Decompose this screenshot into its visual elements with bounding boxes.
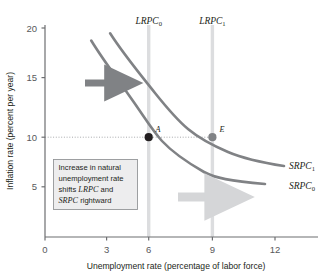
explanation-line-3-pre: shifts bbox=[59, 185, 79, 194]
explanation-line-3-em: LRPC bbox=[77, 185, 99, 194]
x-axis-title: Unemployment rate (percentage of labor f… bbox=[87, 261, 266, 271]
explanation-line-2: unemployment rate bbox=[59, 174, 124, 183]
point-e-label: E bbox=[219, 125, 225, 134]
x-tick-label-6: 6 bbox=[146, 244, 151, 255]
srpc0-label: SRPC0 bbox=[289, 181, 316, 192]
y-axis-title: Inflation rate (percent per year) bbox=[5, 72, 15, 190]
lrpc0-label-text: LRPC bbox=[134, 16, 159, 26]
explanation-line-1: Increase in natural bbox=[59, 163, 122, 172]
x-tick-label-9: 9 bbox=[210, 244, 215, 255]
x-tick-label-12: 12 bbox=[270, 244, 281, 255]
srpc1-label: SRPC1 bbox=[289, 161, 315, 172]
x-tick-label-0: 0 bbox=[42, 244, 47, 255]
lrpc1-label-text: LRPC bbox=[198, 16, 223, 26]
lrpc1-label-sub: 1 bbox=[222, 20, 225, 27]
y-tick-label-15: 15 bbox=[26, 72, 37, 83]
lrpc1-label: LRPC1 bbox=[198, 16, 226, 27]
point-a-label: A bbox=[155, 125, 162, 134]
lrpc0-label: LRPC0 bbox=[134, 16, 162, 27]
y-tick-label-5: 5 bbox=[32, 181, 37, 192]
explanation-line-4-post: rightward bbox=[78, 196, 111, 205]
explanation-line-3: shifts LRPC and bbox=[59, 185, 114, 194]
srpc0-label-text: SRPC bbox=[289, 181, 312, 191]
phillips-curve-figure: 20 15 10 5 0 3 6 9 12 Unemployment rate … bbox=[0, 0, 320, 279]
explanation-line-4-em: SRPC bbox=[59, 196, 79, 205]
explanation-line-4: SRPC rightward bbox=[59, 196, 112, 205]
explanation-line-3-post: and bbox=[98, 185, 113, 194]
point-a-marker bbox=[145, 133, 153, 141]
point-e-marker bbox=[208, 133, 216, 141]
y-tick-label-20: 20 bbox=[26, 23, 37, 34]
srpc1-label-text: SRPC bbox=[289, 161, 312, 171]
y-tick-label-10: 10 bbox=[26, 132, 37, 143]
x-tick-label-3: 3 bbox=[104, 244, 109, 255]
chart-canvas: 20 15 10 5 0 3 6 9 12 Unemployment rate … bbox=[0, 0, 320, 279]
srpc1-label-sub: 1 bbox=[312, 165, 315, 172]
